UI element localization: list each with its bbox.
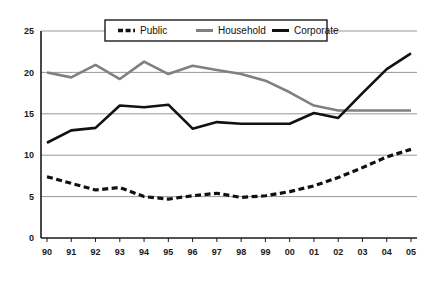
y-tick-label-20: 20 <box>24 68 34 78</box>
x-tick-label-96: 96 <box>188 247 198 257</box>
chart-canvas: 2520151050 90919293949596979899000102030… <box>0 0 427 281</box>
x-tick-label-93: 93 <box>115 247 125 257</box>
legend-label-public: Public <box>140 25 167 36</box>
y-tick-label-25: 25 <box>24 26 34 36</box>
x-tick-label-01: 01 <box>309 247 319 257</box>
x-tick-label-95: 95 <box>163 247 173 257</box>
x-tick-label-99: 99 <box>260 247 270 257</box>
legend-label-corporate: Corporate <box>294 25 339 36</box>
legend-items-group: PublicHouseholdCorporate <box>118 25 339 36</box>
x-tick-label-94: 94 <box>139 247 149 257</box>
x-tick-label-92: 92 <box>91 247 101 257</box>
y-tick-label-5: 5 <box>29 192 34 202</box>
x-tick-label-97: 97 <box>212 247 222 257</box>
line-chart: 2520151050 90919293949596979899000102030… <box>0 0 427 281</box>
chart-legend: PublicHouseholdCorporate <box>105 20 339 41</box>
y-tick-label-0: 0 <box>29 233 34 243</box>
x-tick-label-91: 91 <box>66 247 76 257</box>
x-tick-label-05: 05 <box>406 247 416 257</box>
x-tick-label-04: 04 <box>382 247 392 257</box>
x-tick-label-03: 03 <box>357 247 367 257</box>
x-tick-label-98: 98 <box>236 247 246 257</box>
y-tick-label-15: 15 <box>24 109 34 119</box>
x-tick-label-90: 90 <box>42 247 52 257</box>
y-tick-label-10: 10 <box>24 150 34 160</box>
x-tick-label-02: 02 <box>333 247 343 257</box>
legend-label-household: Household <box>218 25 266 36</box>
x-tick-label-00: 00 <box>285 247 295 257</box>
